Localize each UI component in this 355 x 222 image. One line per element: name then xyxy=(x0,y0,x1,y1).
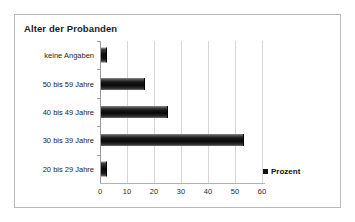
chart-frame: Alter der Probanden keine Angaben 50 bis… xyxy=(14,14,341,208)
x-tick-label: 0 xyxy=(98,187,102,196)
category-tick xyxy=(97,98,100,99)
x-tick-label: 40 xyxy=(204,187,212,196)
bar-row: 40 bis 49 Jahre xyxy=(100,98,265,126)
bar-20-bis-29-jahre[interactable] xyxy=(101,161,107,176)
category-label: 20 bis 29 Jahre xyxy=(43,164,94,173)
bar-row: 30 bis 39 Jahre xyxy=(100,126,265,154)
category-tick xyxy=(97,155,100,156)
x-tick-label: 10 xyxy=(123,187,131,196)
x-axis-tick-labels: 0 10 20 30 40 50 60 xyxy=(100,183,300,199)
category-tick xyxy=(97,126,100,127)
x-tick-label: 30 xyxy=(177,187,185,196)
bar-40-bis-49-jahre[interactable] xyxy=(101,106,168,118)
category-label: 30 bis 39 Jahre xyxy=(43,136,94,145)
category-tick xyxy=(97,41,100,42)
bar-30-bis-39-jahre[interactable] xyxy=(101,134,244,146)
legend-label: Prozent xyxy=(271,167,300,176)
x-tick-label: 50 xyxy=(231,187,239,196)
category-label: 40 bis 49 Jahre xyxy=(43,107,94,116)
plot-area: keine Angaben 50 bis 59 Jahre 40 bis 49 … xyxy=(100,41,265,183)
category-tick xyxy=(97,69,100,70)
bar-row: 50 bis 59 Jahre xyxy=(100,69,265,97)
bar-keine-angaben[interactable] xyxy=(101,48,107,63)
x-tick-label: 20 xyxy=(150,187,158,196)
bar-50-bis-59-jahre[interactable] xyxy=(101,78,145,90)
chart-legend[interactable]: Prozent xyxy=(263,167,300,176)
x-tick-label: 60 xyxy=(258,187,266,196)
category-label: keine Angaben xyxy=(44,51,94,60)
bar-row: 20 bis 29 Jahre xyxy=(100,155,265,183)
category-label: 50 bis 59 Jahre xyxy=(43,79,94,88)
bar-row: keine Angaben xyxy=(100,41,265,69)
legend-square-marker xyxy=(263,169,268,174)
chart-title: Alter der Probanden xyxy=(24,23,117,34)
